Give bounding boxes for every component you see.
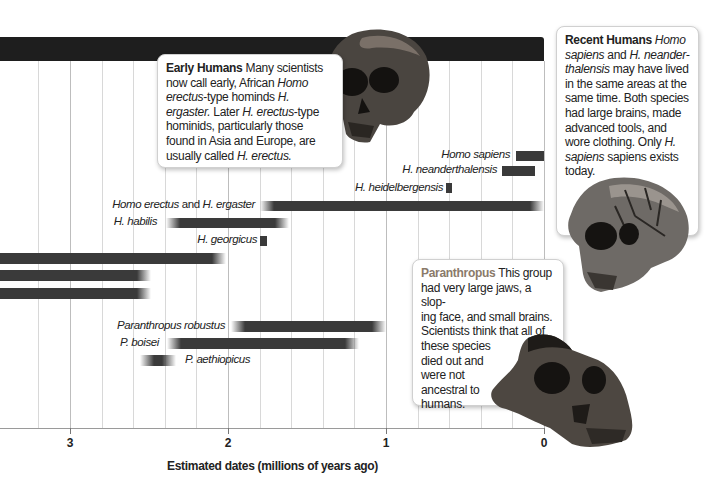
callout-italic: H. erectus.: [237, 149, 292, 163]
bar-heidelbergensis: [446, 183, 452, 193]
x-tick-label: 2: [225, 436, 232, 450]
label-neanderthalensis: H. neanderthalensis: [402, 163, 497, 175]
x-tick-label: 1: [383, 436, 390, 450]
bar-p-boisei: [167, 338, 359, 349]
grid-line: [70, 61, 71, 428]
callout-text: This group: [495, 266, 552, 280]
label-and: and: [179, 198, 203, 210]
x-axis-title: Estimated dates (millions of years ago): [0, 459, 545, 473]
recent-humans-heading: Recent Humans: [565, 33, 652, 47]
label-aethiopicus: P. aethiopicus: [185, 353, 250, 365]
early-humans-heading: Early Humans: [166, 61, 242, 75]
x-tick: [228, 428, 229, 434]
callout-line: Paranthropus This group: [421, 266, 555, 281]
bar-unlabeled-2: [0, 270, 151, 281]
recent-human-skull-icon: [565, 176, 693, 294]
label-habilis: H. habilis: [114, 215, 157, 227]
x-tick: [70, 428, 71, 434]
bar-neanderthalensis: [502, 166, 535, 176]
label-heidelbergensis: H. heidelbergensis: [355, 181, 443, 193]
x-axis-line: [0, 428, 545, 429]
paranthropus-heading: Paranthropus: [421, 266, 495, 280]
grid-line: [133, 61, 134, 428]
bar-unlabeled-3: [0, 288, 151, 299]
early-humans-callout: Early Humans Many scientists now call ea…: [157, 54, 343, 168]
bar-erectus-ergaster: [260, 201, 544, 211]
label-robustus: Paranthropus robustus: [117, 319, 225, 331]
callout-italic: H. erectus: [242, 105, 294, 119]
bar-habilis: [166, 218, 289, 228]
x-tick-label: 3: [67, 436, 74, 450]
x-tick: [386, 428, 387, 434]
label-erectus: Homo erectus: [112, 198, 179, 210]
grid-line: [38, 61, 39, 428]
label-georgicus: H. georgicus: [197, 233, 257, 245]
bar-p-aethiopicus: [140, 355, 176, 366]
callout-text: -type hominds: [203, 90, 278, 104]
label-ergaster: H. ergaster: [203, 198, 255, 210]
label-erectus-ergaster: Homo erectus and H. ergaster: [112, 198, 255, 210]
hominid-timeline-chart: 3 2 1 0 Estimated dates (millions of yea…: [0, 0, 725, 487]
bar-unlabeled-1: [0, 253, 226, 264]
grid-line: [102, 61, 103, 428]
bar-georgicus: [260, 236, 267, 246]
label-homo-sapiens: Homo sapiens: [441, 148, 510, 160]
paranthropus-skull-icon: [488, 332, 640, 452]
callout-line: had very large jaws, a slop-: [421, 281, 555, 310]
bar-homo-sapiens: [516, 151, 544, 161]
callout-text: and: [604, 48, 629, 62]
bar-paranthropus-robustus: [231, 321, 386, 332]
callout-line: ing face, and small brains.: [421, 310, 555, 325]
callout-text: Later: [210, 105, 242, 119]
label-boisei: P. boisei: [120, 336, 159, 348]
